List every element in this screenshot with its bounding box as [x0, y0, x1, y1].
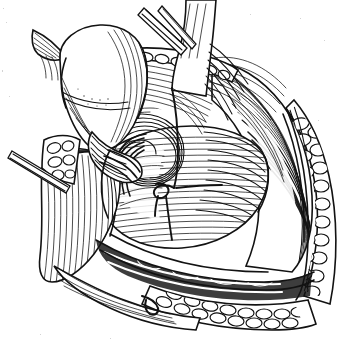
surgical-illustration-figure	[0, 0, 337, 344]
